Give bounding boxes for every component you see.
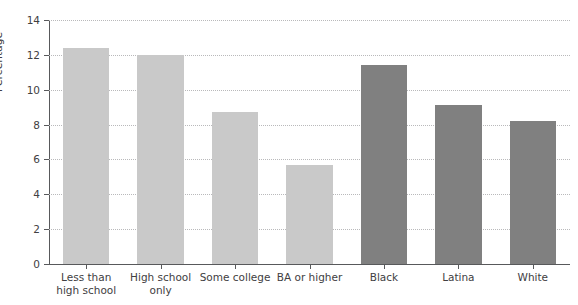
x-tick-mark <box>310 264 311 269</box>
bar[interactable] <box>137 55 184 264</box>
y-tick-mark <box>44 229 49 230</box>
y-tick-label: 0 <box>33 259 40 270</box>
x-tick-mark <box>161 264 162 269</box>
y-tick-mark <box>44 125 49 126</box>
x-tick-label: Black <box>370 271 398 284</box>
plot-area <box>49 20 570 264</box>
bar[interactable] <box>286 165 333 264</box>
gridline <box>49 55 570 56</box>
y-tick-mark <box>44 20 49 21</box>
y-tick-mark <box>44 55 49 56</box>
x-tick-mark <box>235 264 236 269</box>
gridline <box>49 159 570 160</box>
y-axis-title: Percentage <box>0 32 4 92</box>
y-tick-label: 2 <box>33 224 40 235</box>
y-tick-label: 6 <box>33 154 40 165</box>
bar-chart-figure: Percentage 02468101214 Less than high sc… <box>0 0 578 305</box>
y-tick-label: 4 <box>33 189 40 200</box>
x-tick-mark <box>86 264 87 269</box>
x-tick-label: Latina <box>442 271 474 284</box>
y-tick-label: 10 <box>27 84 40 95</box>
x-tick-mark <box>384 264 385 269</box>
y-tick-mark <box>44 264 49 265</box>
bar[interactable] <box>63 48 110 264</box>
y-tick-mark <box>44 159 49 160</box>
y-tick-mark <box>44 194 49 195</box>
x-tick-mark <box>458 264 459 269</box>
x-tick-label: High school only <box>130 271 191 297</box>
x-tick-label: White <box>518 271 549 284</box>
y-tick-label: 8 <box>33 119 40 130</box>
bar[interactable] <box>212 112 259 264</box>
bar[interactable] <box>435 105 482 264</box>
y-tick-mark <box>44 90 49 91</box>
gridline <box>49 20 570 21</box>
x-tick-mark <box>533 264 534 269</box>
bar[interactable] <box>510 121 557 264</box>
gridline <box>49 125 570 126</box>
x-tick-label: Some college <box>200 271 271 284</box>
x-tick-label: Less than high school <box>56 271 116 297</box>
y-tick-label: 14 <box>27 15 40 26</box>
gridline <box>49 90 570 91</box>
bar[interactable] <box>361 65 408 264</box>
x-tick-label: BA or higher <box>277 271 342 284</box>
y-tick-label: 12 <box>27 50 40 61</box>
